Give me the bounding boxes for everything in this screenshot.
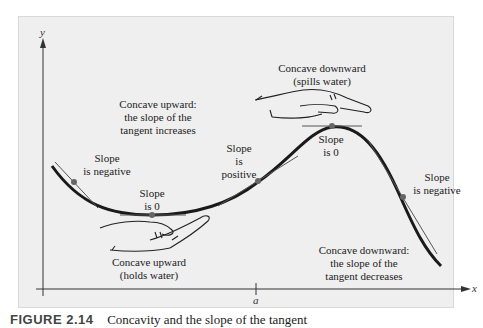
x-tick-label-a: a: [253, 294, 259, 306]
x-axis-label: x: [472, 282, 477, 294]
hand-palm-down-icon: [255, 89, 371, 118]
concave-downward-annotation: Concave downward: the slope of the tange…: [314, 244, 414, 283]
y-axis-label: y: [40, 26, 45, 38]
concave-upward-hand-label: Concave upward (holds water): [104, 256, 194, 282]
x-axis-arrow-icon: [461, 286, 471, 292]
figure-number: FIGURE 2.14: [10, 312, 94, 327]
slope-zero-min-label: Slope is 0: [127, 187, 177, 213]
y-axis-arrow-icon: [40, 38, 46, 48]
concave-upward-annotation: Concave upward: the slope of the tangent…: [112, 98, 204, 137]
slope-negative-right-label: Slope is negative: [404, 171, 470, 197]
figure-caption-text: Concavity and the slope of the tangent: [107, 312, 307, 327]
hand-palm-up-icon: [100, 216, 209, 251]
slope-positive-label: Slope is positive: [214, 142, 264, 181]
concave-downward-hand-label: Concave downward (spills water): [274, 62, 370, 88]
figure-caption: FIGURE 2.14 Concavity and the slope of t…: [10, 312, 307, 328]
slope-negative-left-label: Slope is negative: [72, 152, 142, 178]
slope-zero-max-label: Slope is 0: [306, 133, 356, 159]
